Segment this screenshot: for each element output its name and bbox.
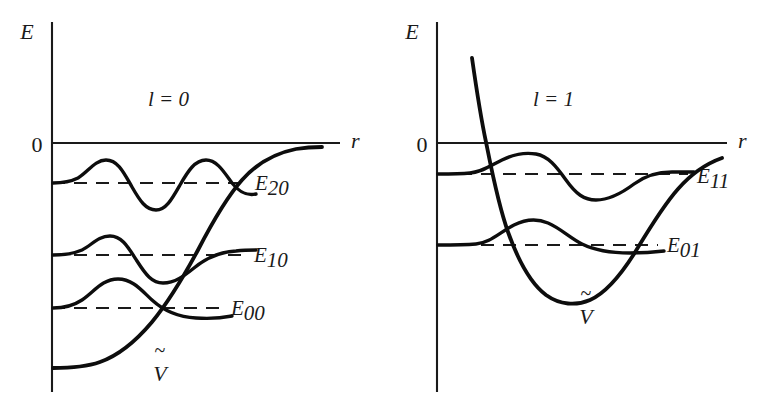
energy-label-E01: E01 [666, 233, 701, 262]
potential-label: V [153, 361, 169, 386]
energy-label-E20: E20 [254, 171, 289, 200]
origin-label: 0 [32, 132, 43, 157]
panel-l0: E 0 r l = 0 E20 E10 E00 ~ V [0, 0, 390, 403]
y-axis-label: E [404, 19, 419, 44]
wavefunction-curve-E11 [438, 153, 694, 200]
energy-label-E00: E00 [230, 296, 265, 325]
quantum-number-label: l = 0 [148, 87, 190, 111]
quantum-number-label: l = 1 [533, 87, 574, 111]
x-axis-label: r [738, 128, 747, 153]
panel-l1: E 0 r l = 1 E11 E01 ~ V [390, 0, 781, 403]
potential-tilde-accent: ~ [581, 282, 592, 304]
potential-curve [472, 58, 722, 304]
y-axis-label: E [19, 19, 34, 44]
physics-figure: E 0 r l = 0 E20 E10 E00 ~ V E 0 r [0, 0, 781, 403]
potential-tilde-accent: ~ [155, 339, 166, 361]
wavefunction-curve-E00 [53, 279, 232, 318]
energy-label-E10: E10 [253, 243, 288, 272]
wavefunction-curve-E01 [438, 220, 664, 253]
wavefunction-curve-E10 [53, 236, 256, 283]
origin-label: 0 [417, 132, 428, 157]
x-axis-label: r [351, 128, 360, 153]
potential-label: V [579, 304, 595, 329]
